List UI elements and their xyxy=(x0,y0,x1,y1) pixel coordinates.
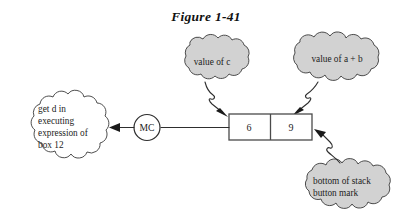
connector-value-of-c xyxy=(205,82,228,117)
callout-bottom-of-stack: bottom of stack button mark xyxy=(305,159,390,209)
stack-box: 6 9 xyxy=(229,114,312,140)
callout-text-note-line-2: expression of xyxy=(38,128,89,138)
figure-diagram: Figure 1-41 value of c value of a + b 6 … xyxy=(0,0,412,219)
figure-title: Figure 1-41 xyxy=(170,9,241,24)
connector-bottom-of-stack xyxy=(314,129,340,163)
connector-line-a-plus-b xyxy=(298,82,318,111)
callout-text-note-line-3: box 12 xyxy=(38,140,64,150)
callout-text-note-line-1: executing xyxy=(38,116,74,126)
callout-value-of-a-plus-b: value of a + b xyxy=(294,32,379,80)
stack-cell-value-1: 9 xyxy=(289,122,294,133)
mc-node: MC xyxy=(134,115,160,141)
callout-text-bottom-line-1: button mark xyxy=(313,188,359,198)
connector-line-c xyxy=(205,82,222,112)
connector-mc-to-note xyxy=(109,123,134,132)
callout-text-value-of-c: value of c xyxy=(194,57,231,67)
diagram-canvas: Figure 1-41 value of c value of a + b 6 … xyxy=(0,0,412,219)
callout-text-value-of-a-plus-b: value of a + b xyxy=(311,54,363,64)
mc-node-label: MC xyxy=(140,122,155,133)
callout-value-of-c: value of c xyxy=(185,34,249,78)
connector-line-bottom xyxy=(323,135,340,163)
connector-value-of-a-plus-b xyxy=(292,82,318,116)
callout-text-note-line-0: get d in xyxy=(38,104,66,114)
arrowhead-note xyxy=(109,123,120,132)
arrowhead-c xyxy=(216,108,228,117)
stack-cell-value-0: 6 xyxy=(247,122,252,133)
callout-get-d-note: get d in executing expression of box 12 xyxy=(31,90,109,158)
callout-text-bottom-line-0: bottom of stack xyxy=(313,176,371,186)
